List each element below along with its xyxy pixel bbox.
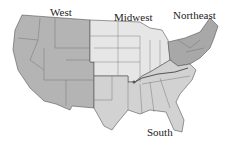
label-midwest: Midwest xyxy=(114,12,153,23)
location-marker xyxy=(133,81,136,84)
region-west xyxy=(13,15,94,110)
region-northeast xyxy=(168,18,218,66)
label-west: West xyxy=(50,7,72,18)
label-south: South xyxy=(147,127,173,138)
label-northeast: Northeast xyxy=(173,10,216,21)
